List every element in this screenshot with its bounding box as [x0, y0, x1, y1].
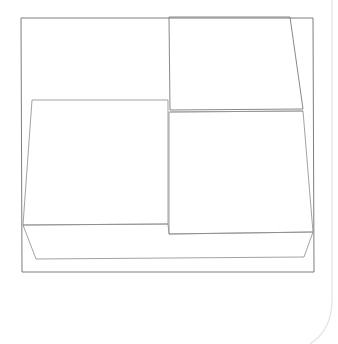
- wireframe-drawing: [21, 0, 332, 344]
- left-box: [23, 100, 168, 225]
- base-platform: [23, 224, 313, 259]
- drawing-canvas: [0, 0, 338, 344]
- lower-right-box: [169, 111, 313, 234]
- top-right-box: [169, 17, 303, 110]
- outer-frame: [21, 18, 314, 272]
